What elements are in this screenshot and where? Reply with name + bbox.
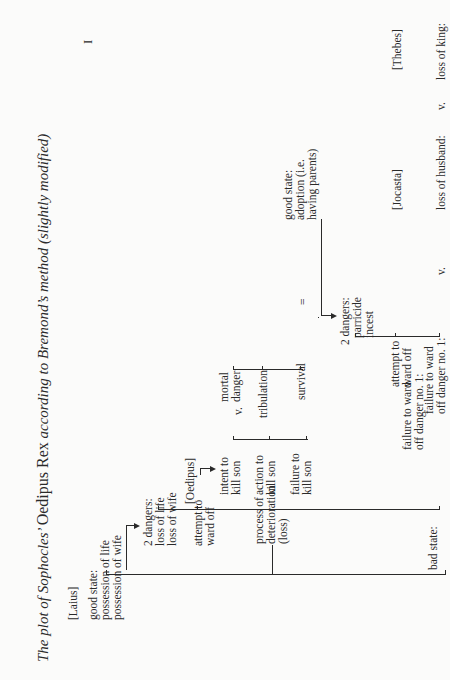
- laius-good-state-1: possession of life: [100, 540, 112, 620]
- tribulation: tribulation: [258, 370, 270, 418]
- oedipus-failure-ward-1: off danger no. 1:: [436, 338, 448, 414]
- title-part-2: according to Bremond’s method (slightly …: [35, 134, 51, 443]
- action-1: kill son: [266, 461, 278, 495]
- page-number: I: [80, 40, 96, 44]
- label-laius: [Laius]: [68, 587, 80, 620]
- equals-1: =: [298, 299, 310, 306]
- laius-dangers-1: loss of life: [155, 497, 167, 546]
- intent-1: kill son: [231, 461, 243, 495]
- process-2: (loss): [278, 518, 290, 544]
- versus-3: v.: [436, 102, 448, 110]
- versus-2: v.: [436, 267, 448, 275]
- intent-0: intent to: [219, 457, 231, 495]
- bad-state: bad state:: [428, 526, 440, 570]
- label-thebes: [Thebes]: [392, 29, 404, 70]
- oedipus-good-state-0: good state:: [283, 170, 295, 220]
- laius-failure-ward-0: failure to ward: [402, 382, 414, 450]
- laius-dangers-0: 2 dangers:: [143, 498, 155, 546]
- title-part-1: The plot of Sophocles’: [35, 525, 51, 662]
- connector-process: [272, 545, 273, 575]
- laius-attempt-1: ward off: [205, 507, 217, 546]
- laius-attempt-0: attempt to: [193, 500, 205, 546]
- failure-kill-1: kill son: [302, 461, 314, 495]
- oedipus-attempt-0: attempt to: [390, 341, 402, 387]
- oedipus-attempt-1: ward off: [402, 348, 414, 387]
- laius-good-state-2: possession of wife: [112, 535, 124, 620]
- laius-dangers-2: loss of wife: [167, 492, 179, 546]
- label-oedipus: [Oedipus]: [185, 458, 197, 504]
- oedipus-good-state-1: adoption (i.e.: [295, 159, 307, 220]
- action-0: action to: [254, 455, 266, 495]
- versus-1: v.: [233, 407, 245, 415]
- mortal-danger-0: mortal: [219, 372, 231, 402]
- oedipus-dangers-1: parricide: [352, 297, 364, 338]
- loss-of-husband: loss of husband:: [436, 135, 448, 210]
- page-title: The plot of Sophocles’ Oedipus Rex accor…: [34, 134, 52, 662]
- title-work: Oedipus Rex: [34, 442, 51, 525]
- loss-of-king: loss of king:: [436, 23, 448, 80]
- oedipus-failure-ward-0: failure to ward: [424, 346, 436, 414]
- label-jocasta: [Jocasta]: [392, 169, 404, 210]
- oedipus-dangers-2: incest: [364, 311, 376, 338]
- oedipus-good-state-2: having parents): [307, 149, 319, 220]
- failure-kill-0: failure to: [290, 453, 302, 495]
- process-0: process of: [254, 497, 266, 544]
- mortal-danger-1: danger: [231, 371, 243, 402]
- rotated-page: I The plot of Sophocles’ Oedipus Rex acc…: [0, 0, 450, 680]
- oedipus-dangers-0: 2 dangers:: [340, 297, 352, 345]
- laius-good-state-0: good state:: [88, 570, 100, 620]
